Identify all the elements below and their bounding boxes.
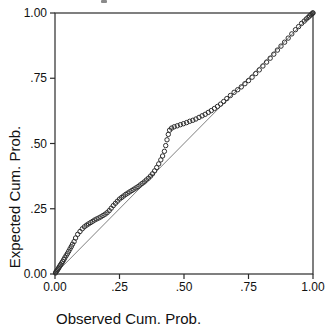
data-point <box>165 138 169 142</box>
data-point <box>279 44 283 48</box>
data-point <box>160 154 164 158</box>
x-tick-label: 1.00 <box>301 280 325 294</box>
y-tick-label: 1.00 <box>24 6 48 20</box>
data-point <box>250 75 254 79</box>
data-point <box>162 149 166 153</box>
data-point <box>261 64 265 68</box>
data-point <box>257 68 261 72</box>
y-axis-title: Expected Cum. Prob. <box>6 126 23 269</box>
y-tick-label: .50 <box>30 137 47 151</box>
x-axis-title: Observed Cum. Prob. <box>56 310 201 327</box>
x-tick-label: .75 <box>240 280 257 294</box>
x-tick-label: .25 <box>111 280 128 294</box>
pp-plot-canvas: 0.00.25.50.751.000.00.25.50.751.00 Expec… <box>0 0 329 329</box>
x-tick-label: .50 <box>176 280 193 294</box>
data-point <box>246 78 250 82</box>
data-point <box>164 143 168 147</box>
data-point <box>254 71 258 75</box>
y-tick-label: 0.00 <box>24 267 48 281</box>
cropped-title-fragment <box>101 0 107 3</box>
x-tick-label: 0.00 <box>43 280 67 294</box>
pp-plot-figure: 0.00.25.50.751.000.00.25.50.751.00 Expec… <box>0 0 329 329</box>
y-tick-label: .75 <box>30 71 47 85</box>
y-tick-label: .25 <box>30 202 47 216</box>
